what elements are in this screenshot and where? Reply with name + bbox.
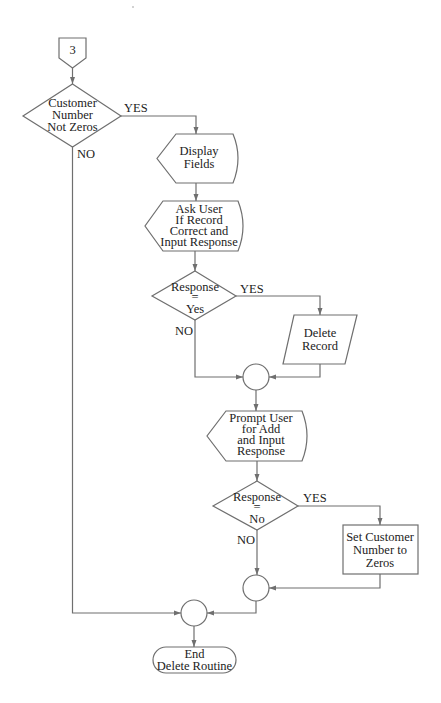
edge-label-d1-yes: YES [124,101,148,115]
edge-label-d3-no: NO [237,533,255,547]
setzero-line2: Number to [353,543,407,557]
connector-join-1 [243,364,269,390]
arrow-d3-yes-to-setzero [298,506,380,525]
setzero-line1: Set Customer [346,530,415,544]
arrow-d1-yes-to-display [121,116,196,134]
connector-join-3 [181,600,207,626]
edge-label-d2-yes: YES [240,282,264,296]
decision2-line3: Yes [186,302,204,316]
display-line1: Display [180,144,220,158]
process-set-customer-number-to-zeros: Set Customer Number to Zeros [343,525,418,574]
decision3-line3: No [249,512,264,526]
decision-customer-number-not-zeros: Customer Number Not Zeros [23,84,121,147]
decision1-line3: Not Zeros [47,120,97,134]
setzero-line3: Zeros [366,556,395,570]
connector-join-2 [243,575,269,601]
edge-label-d3-yes: YES [303,491,327,505]
off-page-connector-3: 3 [59,38,86,68]
prompt-line4: Response [237,444,285,458]
arrow-delete-to-join1 [269,364,320,377]
display-ask-user-if-record-correct: Ask User If Record Correct and Input Res… [145,201,243,251]
decision-response-equals-no: Response = No [213,481,298,530]
connector-label: 3 [69,43,75,57]
terminator-end-delete-routine: End Delete Routine [153,647,236,673]
display-line2: Fields [184,157,215,171]
end-line2: Delete Routine [157,659,233,673]
arrow-d2-no-to-join1 [195,320,243,377]
delete-line1: Delete [304,326,337,340]
edge-label-d1-no: NO [77,147,95,161]
flowchart-canvas: 3 Customer Number Not Zeros YES NO Displ… [0,0,441,703]
arrow-setzero-to-join2 [269,574,380,588]
ask-line4: Input Response [160,235,238,249]
arrow-d2-yes-to-delete [236,296,320,315]
arrow-join2-to-join3 [207,601,256,613]
speck-artifact [132,6,134,8]
decision-response-equals-yes: Response = Yes [152,271,236,320]
delete-line2: Record [302,339,339,353]
display-fields: Display Fields [157,134,238,183]
display-prompt-user-for-add: Prompt User for Add and Input Response [207,411,307,461]
io-delete-record: Delete Record [283,315,357,364]
edge-label-d2-no: NO [175,324,193,338]
